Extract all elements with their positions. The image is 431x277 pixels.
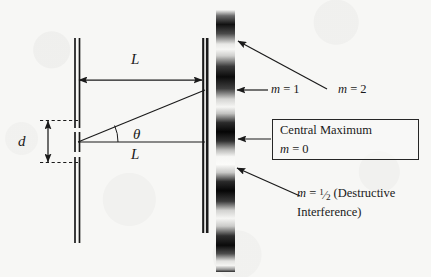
destructive-text-line2: Interference) — [297, 205, 362, 219]
label-distance-L-top: L — [131, 52, 139, 67]
barrier-segment-upper — [75, 38, 80, 128]
label-order-m2-value: = 2 — [347, 82, 367, 96]
label-order-m2: m = 2 — [338, 83, 367, 96]
label-angle-theta: θ — [133, 127, 140, 142]
label-destructive-interference: m = 1⁄2 (Destructive Interference) — [297, 185, 429, 220]
double-slit-diagram: d L L θ m = 1 m = 2 Central Maximum m = … — [0, 0, 431, 277]
interference-fringe-pattern — [216, 10, 235, 272]
ray-to-first-maximum — [78, 90, 205, 142]
label-order-m2-symbol: m — [338, 82, 347, 96]
destructive-order-symbol: m — [297, 186, 306, 200]
central-maximum-order: m = 0 — [280, 142, 418, 157]
fraction-numerator: 1 — [319, 187, 324, 197]
central-maximum-order-value: = 0 — [289, 142, 309, 156]
fraction-one-half: 1⁄2 — [319, 187, 330, 204]
central-maximum-title: Central Maximum — [280, 123, 418, 138]
viewing-screen — [203, 38, 207, 233]
label-order-m1-value: = 1 — [280, 82, 300, 96]
destructive-equals: = — [306, 186, 319, 200]
label-distance-L-bottom: L — [131, 147, 139, 162]
pointer-arrow-destructive — [237, 168, 300, 196]
central-maximum-callout-box: Central Maximum m = 0 — [272, 119, 419, 160]
label-order-m1-symbol: m — [271, 82, 280, 96]
central-maximum-order-symbol: m — [280, 142, 289, 156]
angle-arc-theta — [115, 126, 118, 143]
label-slit-separation: d — [18, 134, 26, 149]
destructive-text-line1: (Destructive — [330, 186, 395, 200]
slit-barrier — [75, 38, 80, 243]
label-order-m1: m = 1 — [271, 83, 300, 96]
barrier-segment-lower — [75, 157, 80, 243]
